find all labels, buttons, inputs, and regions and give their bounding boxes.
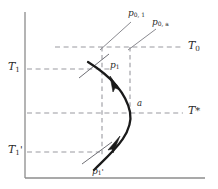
axis-label-Tstar: T*: [188, 105, 200, 116]
phase-diagram-figure: T0 T1 T* T1' p0, 1 p0, a p1 p1' a: [0, 0, 218, 189]
axis-label-Tstar-prime: *: [195, 105, 200, 116]
pressure-label-p0-a: p0, a: [152, 18, 169, 27]
tangent-lines-group: [79, 54, 112, 164]
isotherm-lines-group: [27, 47, 183, 152]
coexistence-curve: [88, 62, 130, 170]
axis-label-T1: T1: [8, 61, 20, 73]
curve-arrow-upper-icon: [110, 76, 120, 92]
axis-label-T1prime: T1': [8, 144, 23, 156]
pressure-label-p0-a-sub: 0, a: [158, 20, 169, 27]
diagram-canvas: [0, 0, 218, 189]
pressure-label-p0-1-sub: 0, 1: [134, 11, 145, 18]
axis-label-T1-sub: 1: [15, 65, 20, 74]
pressure-label-p0-1: p0, 1: [128, 9, 145, 18]
leader-line-p0-1: [100, 22, 131, 50]
axis-label-T1prime-prime: ': [20, 144, 23, 155]
pressure-label-p1: p1: [110, 61, 120, 70]
axis-label-T0-sub: 0: [195, 44, 200, 53]
pressure-label-p1prime-prime: ': [102, 166, 104, 176]
point-label-a-text: a: [137, 98, 142, 108]
pressure-label-p1prime: p1': [92, 167, 104, 176]
axis-label-T0: T0: [188, 40, 200, 52]
point-label-a: a: [137, 99, 142, 108]
pressure-label-p1-sub: 1: [116, 63, 120, 70]
coexistence-curve-group: [88, 62, 130, 170]
tangent-line-p1prime: [82, 142, 112, 164]
leader-lines-group: [100, 22, 156, 50]
